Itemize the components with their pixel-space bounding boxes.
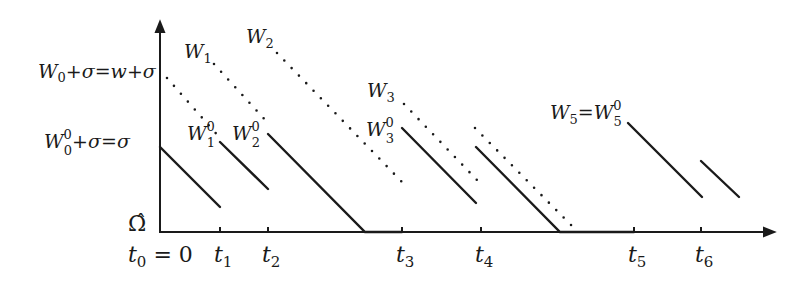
tick-label-t4: t4 — [475, 242, 493, 271]
x-tick-labels: t0 = 0t1t2t3t4t5t6 — [128, 242, 713, 271]
w0-zero-plus-sigma-label: W00+σ=σ — [44, 127, 131, 158]
label-w3-zero: W03 — [366, 115, 394, 146]
label-w2-zero: W02 — [232, 119, 260, 150]
tick-label-t5: t5 — [628, 242, 646, 271]
label-w2: W2 — [246, 25, 274, 51]
y-axis-label-omega-hat: Ω̂ — [128, 211, 146, 236]
tick-label-t0: t0 = 0 — [128, 242, 193, 271]
w6-solid — [701, 161, 739, 197]
w1-solid — [220, 142, 268, 189]
w1-dotted — [214, 64, 268, 123]
tick-label-t3: t3 — [396, 242, 414, 271]
w3-solid — [402, 128, 476, 203]
waiting-time-diagram: Ω̂ t0 = 0t1t2t3t4t5t6 W0+σ=w+σ W00+σ=σ W… — [0, 0, 812, 284]
label-w3: W3 — [367, 79, 395, 105]
w4-dotted — [475, 128, 572, 226]
label-w1-zero: W01 — [187, 119, 215, 150]
label-w1: W1 — [184, 40, 212, 66]
tick-label-t1: t1 — [214, 242, 232, 271]
label-w5-equals-w5-zero: W5=W05 — [550, 98, 622, 129]
w0-plus-sigma-label: W0+σ=w+σ — [38, 60, 157, 85]
w4-solid — [476, 147, 634, 232]
w5-solid — [628, 123, 702, 197]
tick-label-t2: t2 — [262, 242, 280, 271]
w2-solid — [268, 134, 402, 232]
w0-solid — [160, 147, 220, 207]
tick-label-t6: t6 — [695, 242, 713, 271]
